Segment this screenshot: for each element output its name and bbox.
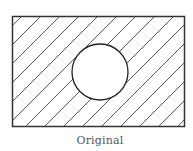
figure-canvas xyxy=(0,0,193,151)
hatched-rectangle-figure: Original xyxy=(0,0,193,151)
circle-hole xyxy=(72,44,128,100)
figure-caption: Original xyxy=(0,134,193,147)
